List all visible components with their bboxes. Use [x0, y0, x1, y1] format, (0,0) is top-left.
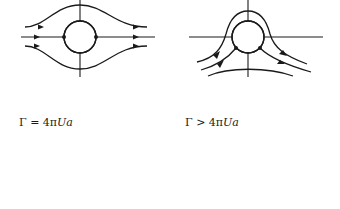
label-italic: Ua	[223, 116, 239, 129]
streamline-right-outflow	[260, 48, 311, 72]
arrow-icon	[38, 25, 44, 30]
stagnation-point	[234, 46, 238, 50]
arrow-icon	[34, 44, 40, 49]
panel-no-circulation	[21, 0, 155, 77]
arrow-icon	[133, 35, 139, 40]
arrow-icon	[279, 50, 287, 56]
panel-sub-critical-circulation	[189, 0, 323, 77]
label-prefix: Γ = 4π	[19, 116, 57, 129]
stagnation-point	[62, 35, 66, 39]
arrow-icon	[133, 44, 139, 49]
streamline-diagram	[0, 0, 340, 209]
cylinder	[218, 7, 280, 69]
label-italic: Ua	[57, 116, 73, 129]
label-prefix: Γ > 4π	[185, 116, 223, 129]
arrow-icon	[133, 25, 139, 30]
critical-circulation-label: Γ = 4πUa	[19, 117, 73, 128]
cylinder	[50, 7, 112, 69]
stagnation-point	[94, 35, 98, 39]
super-critical-circulation-label: Γ > 4πUa	[185, 117, 239, 128]
streamline-lower	[208, 69, 293, 76]
arrow-icon	[34, 35, 40, 40]
stagnation-point	[258, 46, 262, 50]
